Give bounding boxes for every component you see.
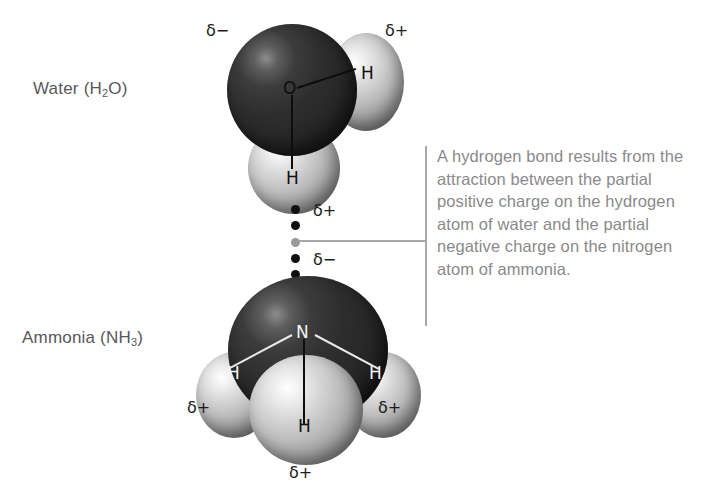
ammonia-hydrogen-left-letter: H <box>227 363 240 383</box>
water-hydrogen-bottom-charge-label: δ+ <box>313 201 336 220</box>
caption-leader-line <box>299 240 425 242</box>
ammonia-molecule-label: Ammonia (NH3) <box>22 328 143 348</box>
hydrogen-bond-dot <box>291 205 300 214</box>
ammonia-hydrogen-right-letter: H <box>369 363 382 383</box>
ammonia-nitrogen-charge-label: δ− <box>313 250 336 269</box>
caption-text: A hydrogen bond results from the attract… <box>437 145 705 281</box>
ammonia-hydrogen-front-letter: H <box>298 416 311 436</box>
water-hydrogen-right-charge-label: δ+ <box>385 21 408 40</box>
water-label-tail: O) <box>108 79 127 98</box>
ammonia-nitrogen-letter: N <box>296 322 309 342</box>
ammonia-hydrogen-front-sphere <box>249 355 363 465</box>
ammonia-label-main: Ammonia (NH <box>22 328 131 347</box>
water-bond-oxygen-hydrogen-bottom <box>291 95 293 169</box>
hydrogen-bond-anchor-dot <box>291 238 300 247</box>
water-oxygen-letter: O <box>283 78 296 98</box>
caption-vertical-rule <box>425 146 427 326</box>
ammonia-hydrogen-front-charge-label: δ+ <box>289 463 312 482</box>
hydrogen-bond-dot <box>291 221 300 230</box>
water-label-main: Water (H <box>33 79 102 98</box>
water-molecule-label: Water (H2O) <box>33 79 128 99</box>
water-hydrogen-bottom-letter: H <box>286 168 299 188</box>
hydrogen-bond-dot <box>291 254 300 263</box>
ammonia-hydrogen-left-charge-label: δ+ <box>187 398 210 417</box>
hydrogen-bond-diagram: Water (H2O) O H H δ− δ+ δ+ Ammonia (NH3) <box>0 0 711 495</box>
ammonia-label-tail: ) <box>137 328 143 347</box>
water-hydrogen-right-letter: H <box>361 63 374 83</box>
hydrogen-bond-dotted-line <box>289 205 301 279</box>
ammonia-hydrogen-right-charge-label: δ+ <box>378 398 401 417</box>
ammonia-bond-nitrogen-hydrogen-front <box>303 339 305 425</box>
water-oxygen-charge-label: δ− <box>206 21 229 40</box>
